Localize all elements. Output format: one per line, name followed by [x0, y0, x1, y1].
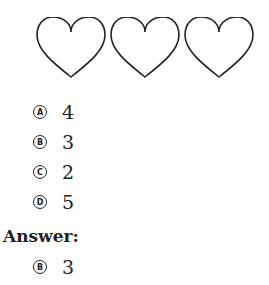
- option-b[interactable]: B 3: [33, 131, 74, 153]
- heart-icon: [184, 17, 254, 79]
- option-a[interactable]: A 4: [33, 101, 74, 123]
- option-bubble[interactable]: A: [33, 105, 47, 119]
- answer-value: 3: [62, 256, 74, 278]
- heart-icon: [36, 17, 106, 79]
- hearts-figure: [36, 17, 256, 79]
- option-value: 4: [62, 101, 74, 123]
- option-bubble[interactable]: D: [33, 195, 47, 209]
- option-c[interactable]: C 2: [33, 161, 74, 183]
- answer-choice: B 3: [33, 256, 74, 278]
- option-value: 2: [62, 161, 74, 183]
- answer-bubble: B: [33, 260, 47, 274]
- option-bubble[interactable]: B: [33, 135, 47, 149]
- option-bubble[interactable]: C: [33, 165, 47, 179]
- answer-label: Answer:: [3, 226, 79, 246]
- option-d[interactable]: D 5: [33, 191, 74, 213]
- option-value: 5: [62, 191, 74, 213]
- heart-icon: [110, 17, 180, 79]
- option-value: 3: [62, 131, 74, 153]
